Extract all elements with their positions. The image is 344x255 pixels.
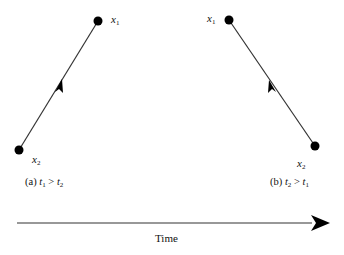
diagram-canvas [0,0,344,255]
panel-b-x2-dot [311,142,320,151]
panel-a-x2-dot [15,146,24,155]
panel-b-graphic [225,16,320,151]
panel-a-x1-label: x1 [111,13,119,27]
time-axis [17,215,330,231]
panel-a-graphic [15,17,103,155]
panel-b-x2-label: x2 [297,157,305,171]
panel-a-x2-label: x2 [32,153,40,167]
time-axis-label: Time [155,232,178,244]
time-arrowhead-icon [311,215,330,231]
panel-b-edge [229,20,315,146]
panel-a-x1-dot [94,17,103,26]
panel-b-caption: (b) t2 > t1 [270,176,309,189]
panel-b-x1-label: x1 [207,12,215,26]
panel-a-caption: (a) t1 > t2 [25,176,63,189]
panel-b-x1-dot [225,16,234,25]
panel-a-direction-arrow-icon [55,79,63,93]
